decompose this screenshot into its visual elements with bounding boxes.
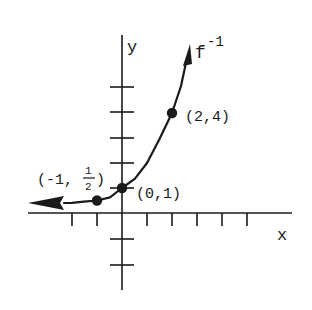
graph-canvas: y x f -1 (2,4) (0,1) (-1, 1 2 ) — [0, 0, 312, 310]
curve-arrow-up-icon — [183, 44, 192, 66]
point-2-4 — [167, 108, 177, 118]
point-neg1-half — [92, 195, 102, 205]
point-0-1 — [117, 183, 127, 193]
fraction-denominator: 2 — [85, 181, 92, 193]
point-label-prefix: (-1, — [37, 172, 73, 189]
point-label-2-4: (2,4) — [185, 109, 230, 126]
point-label-0-1: (0,1) — [136, 186, 181, 203]
point-label-suffix: ) — [96, 172, 105, 189]
function-label: f — [195, 43, 206, 63]
fraction-numerator: 1 — [85, 165, 92, 177]
x-axis-label: x — [277, 226, 287, 245]
curve-arrow-left-icon — [28, 196, 64, 210]
x-axis-ticks — [72, 213, 247, 226]
point-label-neg1-half: (-1, 1 2 ) — [37, 165, 105, 193]
y-axis-label: y — [127, 38, 137, 57]
function-superscript: -1 — [207, 34, 224, 50]
inverse-function-curve — [64, 58, 187, 203]
